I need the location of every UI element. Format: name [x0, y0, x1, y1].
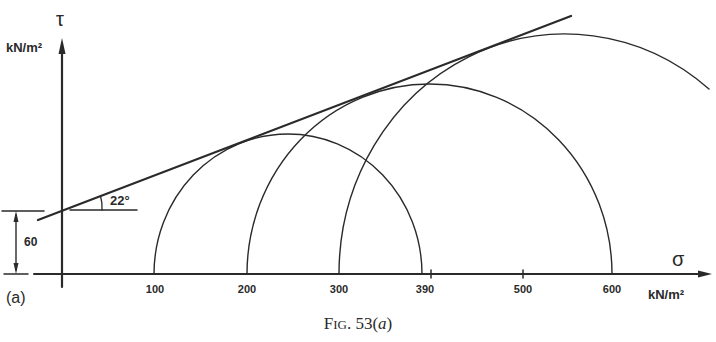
tick-label-200: 200 — [238, 283, 256, 295]
tick-label-390: 390 — [416, 283, 434, 295]
tau-axis-arrowhead — [59, 38, 66, 54]
sigma-axis-arrowhead — [698, 271, 712, 278]
angle-label: 22° — [110, 193, 130, 208]
tick-label-500: 500 — [514, 283, 532, 295]
tick-label-300: 300 — [330, 283, 348, 295]
mohr-circle-3 — [339, 34, 709, 274]
sigma-symbol: σ — [672, 248, 684, 271]
sigma-unit: kN/m² — [648, 287, 684, 302]
tau-symbol: τ — [56, 8, 64, 31]
failure-envelope — [38, 16, 571, 220]
intercept-label: 60 — [24, 235, 37, 249]
figure-caption: FIG. 53(a) — [0, 314, 716, 334]
tau-unit: kN/m² — [6, 40, 42, 55]
mohr-circle-2 — [247, 84, 612, 274]
panel-label: (a) — [6, 289, 26, 307]
angle-arc — [101, 196, 103, 210]
tick-label-100: 100 — [146, 283, 164, 295]
tick-label-600: 600 — [603, 283, 621, 295]
